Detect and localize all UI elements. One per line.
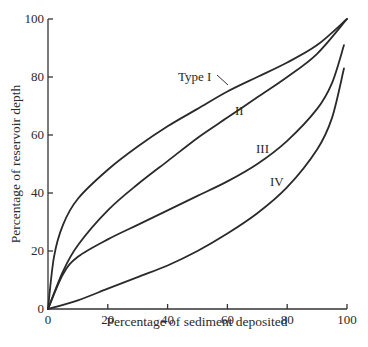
- curve-label-leader-type-i: [217, 75, 228, 85]
- y-tick-label: 20: [31, 243, 44, 258]
- y-tick-label: 100: [25, 11, 45, 26]
- curve-ii: [48, 19, 347, 309]
- y-axis-label: Percentage of reservoir depth: [8, 84, 23, 243]
- curves: [48, 19, 347, 309]
- axes: [48, 19, 347, 309]
- curve-label-iv: IV: [270, 174, 284, 189]
- curve-type-i: [48, 19, 347, 309]
- x-axis-label: Percentage of sediment deposited: [106, 314, 287, 329]
- curve-label-iii: III: [256, 141, 269, 156]
- y-tick-label: 60: [31, 127, 44, 142]
- y-tick-label: 40: [31, 185, 44, 200]
- curve-label-ii: II: [235, 103, 244, 118]
- x-tick-label: 0: [45, 312, 52, 327]
- curve-iv: [48, 68, 344, 309]
- y-ticks: 020406080100: [25, 11, 54, 316]
- y-tick-label: 0: [38, 301, 45, 316]
- curve-label-type-i: Type I: [178, 69, 211, 84]
- curve-labels: Type I II III IV: [178, 69, 284, 189]
- reservoir-sediment-chart: 020406080100 020406080100 Type I II III …: [0, 0, 368, 347]
- curve-iii: [48, 45, 344, 309]
- y-tick-label: 80: [31, 69, 44, 84]
- x-tick-label: 100: [337, 312, 357, 327]
